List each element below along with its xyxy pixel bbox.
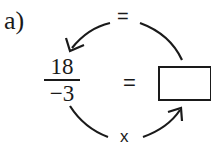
fraction: 18 −3 [44, 56, 80, 105]
bottom-left-arc [70, 106, 108, 137]
top-left-arc-arrow [72, 23, 110, 48]
fraction-numerator: 18 [44, 56, 80, 78]
fraction-denominator: −3 [44, 83, 80, 105]
answer-box[interactable] [158, 66, 211, 101]
equals-sign: = [123, 72, 136, 94]
bottom-operator: x [120, 128, 129, 145]
bottom-right-arc-arrow [143, 110, 180, 137]
top-operator: = [117, 6, 129, 26]
top-right-arc [140, 23, 182, 60]
